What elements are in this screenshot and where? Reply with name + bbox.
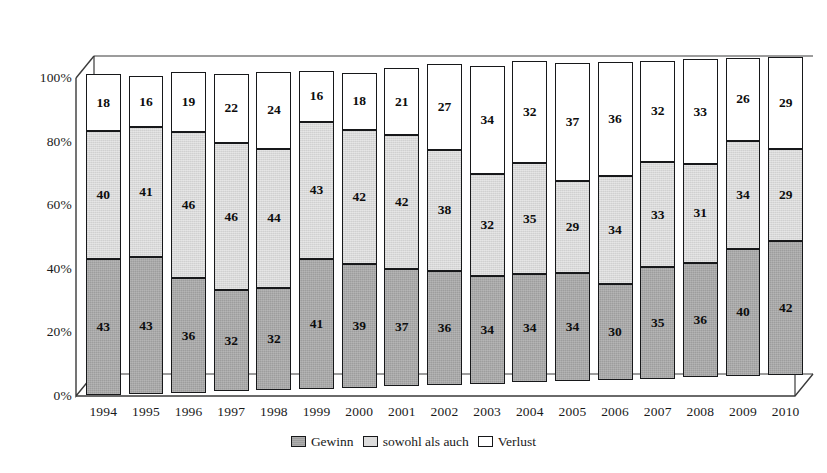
bar-segment-value: 46 xyxy=(182,198,196,211)
bar-column-2006[interactable]: 303436 xyxy=(598,62,633,380)
bar-segment-gewinn[interactable]: 34 xyxy=(470,276,505,384)
bar-column-1996[interactable]: 364619 xyxy=(171,75,206,393)
bar-segment-sowohl-als-auch[interactable]: 40 xyxy=(86,131,121,258)
bar-column-1999[interactable]: 414316 xyxy=(299,71,334,389)
bar-segment-value: 32 xyxy=(523,105,537,118)
bar-segment-value: 21 xyxy=(395,95,409,108)
bar-segment-sowohl-als-auch[interactable]: 42 xyxy=(384,135,419,269)
bar-segment-verlust[interactable]: 34 xyxy=(470,66,505,174)
bar-column-2004[interactable]: 343532 xyxy=(512,64,547,382)
bar-segment-value: 29 xyxy=(566,220,580,233)
legend-item-label: Verlust xyxy=(498,434,536,449)
bar-segment-verlust[interactable]: 18 xyxy=(86,74,121,131)
bar-segment-gewinn[interactable]: 35 xyxy=(640,267,675,378)
x-axis-tick-label: 2009 xyxy=(721,404,765,420)
bar-segment-gewinn[interactable]: 32 xyxy=(214,290,249,392)
bar-segment-value: 36 xyxy=(438,321,452,334)
legend-item-label: sowohl als auch xyxy=(383,434,469,449)
bar-segment-verlust[interactable]: 24 xyxy=(256,72,291,148)
bar-segment-verlust[interactable]: 29 xyxy=(768,57,803,149)
bar-segment-gewinn[interactable]: 34 xyxy=(512,274,547,382)
bar-column-1995[interactable]: 434116 xyxy=(129,76,164,394)
bar-segment-verlust[interactable]: 37 xyxy=(555,63,590,181)
bar-segment-sowohl-als-auch[interactable]: 46 xyxy=(214,143,249,289)
y-axis-tick-label: 100% xyxy=(2,71,72,85)
bar-segment-value: 42 xyxy=(779,301,793,314)
bar-segment-value: 32 xyxy=(267,332,281,345)
bar-segment-sowohl-als-auch[interactable]: 32 xyxy=(470,174,505,276)
bar-column-2002[interactable]: 363827 xyxy=(427,67,462,385)
bar-segment-value: 31 xyxy=(694,206,708,219)
bar-segment-verlust[interactable]: 18 xyxy=(342,73,377,130)
bar-segment-value: 18 xyxy=(97,96,111,109)
bar-segment-gewinn[interactable]: 32 xyxy=(256,288,291,390)
bar-column-1994[interactable]: 434018 xyxy=(86,77,121,395)
bar-segment-gewinn[interactable]: 36 xyxy=(171,278,206,392)
bar-column-1997[interactable]: 324622 xyxy=(214,73,249,391)
bar-segment-value: 32 xyxy=(225,334,239,347)
bar-segment-value: 43 xyxy=(97,320,111,333)
bar-segment-gewinn[interactable]: 39 xyxy=(342,264,377,388)
bar-segment-gewinn[interactable]: 41 xyxy=(299,259,334,389)
bar-segment-sowohl-als-auch[interactable]: 35 xyxy=(512,163,547,274)
bar-segment-gewinn[interactable]: 40 xyxy=(726,249,761,376)
bar-segment-value: 22 xyxy=(225,101,239,114)
bar-column-2009[interactable]: 403426 xyxy=(726,58,761,376)
bar-segment-verlust[interactable]: 33 xyxy=(683,59,718,164)
bar-column-2008[interactable]: 363133 xyxy=(683,59,718,377)
bar-segment-gewinn[interactable]: 36 xyxy=(683,263,718,377)
bar-column-2000[interactable]: 394218 xyxy=(342,70,377,388)
legend-item-sowohl-als-auch[interactable]: sowohl als auch xyxy=(363,434,469,449)
bar-segment-gewinn[interactable]: 42 xyxy=(768,241,803,375)
swatch-white-icon xyxy=(478,436,493,447)
bar-segment-sowohl-als-auch[interactable]: 31 xyxy=(683,164,718,263)
bar-segment-gewinn[interactable]: 43 xyxy=(86,259,121,396)
bar-segment-sowohl-als-auch[interactable]: 43 xyxy=(299,122,334,259)
bar-segment-verlust[interactable]: 32 xyxy=(640,61,675,163)
bar-segment-verlust[interactable]: 16 xyxy=(299,71,334,122)
bar-segment-verlust[interactable]: 27 xyxy=(427,64,462,150)
bar-segment-value: 36 xyxy=(182,329,196,342)
bar-segment-gewinn[interactable]: 43 xyxy=(129,257,164,394)
bar-segment-sowohl-als-auch[interactable]: 38 xyxy=(427,150,462,271)
bar-segment-sowohl-als-auch[interactable]: 34 xyxy=(598,176,633,284)
bar-segment-verlust[interactable]: 19 xyxy=(171,72,206,132)
bar-column-2001[interactable]: 374221 xyxy=(384,68,419,386)
bar-segment-verlust[interactable]: 16 xyxy=(129,76,164,127)
bar-segment-sowohl-als-auch[interactable]: 34 xyxy=(726,141,761,249)
bar-segment-value: 29 xyxy=(779,188,793,201)
bar-segment-value: 32 xyxy=(651,104,665,117)
legend-item-gewinn[interactable]: Gewinn xyxy=(291,434,354,449)
bar-column-2005[interactable]: 342937 xyxy=(555,63,590,381)
swatch-light-gray-icon xyxy=(363,436,378,447)
bar-segment-gewinn[interactable]: 36 xyxy=(427,271,462,385)
bar-segment-sowohl-als-auch[interactable]: 29 xyxy=(768,149,803,241)
bar-segment-verlust[interactable]: 32 xyxy=(512,61,547,163)
x-axis-tick-label: 2003 xyxy=(465,404,509,420)
bar-segment-verlust[interactable]: 21 xyxy=(384,68,419,135)
bar-column-2007[interactable]: 353332 xyxy=(640,61,675,379)
bar-segment-gewinn[interactable]: 30 xyxy=(598,284,633,379)
legend-item-verlust[interactable]: Verlust xyxy=(478,434,536,449)
bar-column-2010[interactable]: 422929 xyxy=(768,57,803,375)
y-axis-tick-label: 80% xyxy=(2,135,72,149)
bar-segment-value: 34 xyxy=(480,113,494,126)
y-axis-tick-label: 0% xyxy=(2,389,72,403)
bar-segment-gewinn[interactable]: 34 xyxy=(555,273,590,381)
bar-segment-verlust[interactable]: 36 xyxy=(598,62,633,176)
bar-segment-gewinn[interactable]: 37 xyxy=(384,269,419,387)
bar-segment-value: 34 xyxy=(523,321,537,334)
bar-column-1998[interactable]: 324424 xyxy=(256,72,291,390)
bar-segment-sowohl-als-auch[interactable]: 41 xyxy=(129,127,164,257)
bar-segment-value: 38 xyxy=(438,203,452,216)
bar-segment-verlust[interactable]: 22 xyxy=(214,74,249,144)
bar-segment-sowohl-als-auch[interactable]: 46 xyxy=(171,132,206,278)
bar-segment-value: 16 xyxy=(310,89,324,102)
bar-segment-sowohl-als-auch[interactable]: 42 xyxy=(342,130,377,264)
x-axis-tick-label: 2007 xyxy=(636,404,680,420)
bar-segment-sowohl-als-auch[interactable]: 33 xyxy=(640,162,675,267)
bar-column-2003[interactable]: 343234 xyxy=(470,66,505,384)
bar-segment-verlust[interactable]: 26 xyxy=(726,58,761,141)
bar-segment-sowohl-als-auch[interactable]: 29 xyxy=(555,181,590,273)
bar-segment-sowohl-als-auch[interactable]: 44 xyxy=(256,149,291,289)
